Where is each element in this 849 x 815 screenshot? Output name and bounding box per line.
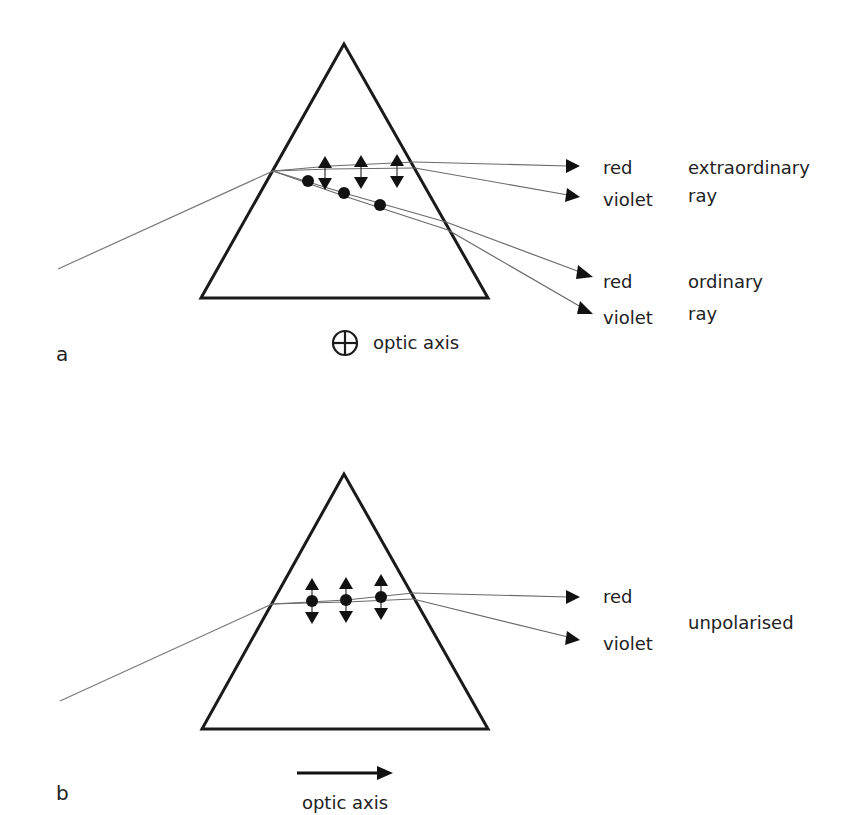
label-e-red: red [603,157,633,178]
label-e-violet: violet [603,189,653,210]
birefringent-prism-diagram: red violet red violet extraordinary ray … [0,0,849,815]
ray-violet-out [413,599,568,637]
optic-axis-label-a: optic axis [373,332,459,353]
dot-icon [338,187,350,199]
o-ray-violet-out [448,230,581,307]
label-extraordinary: extraordinary [688,157,810,178]
arrowhead-icon [576,265,593,279]
arrowhead-icon [565,188,580,202]
dot-icon [374,199,386,211]
arrowhead-icon [565,631,580,645]
double-arrow-icon [390,154,404,188]
arrowhead-icon [566,590,580,604]
label-ordinary: ordinary [688,271,763,292]
part-label-b: b [56,781,69,805]
e-ray-polarisation-arrows [318,154,404,190]
panel-b: red violet unpolarised optic axis b [56,474,794,813]
double-arrow-icon [318,156,332,190]
unpolarised-markers [305,574,388,624]
label-o-violet: violet [603,307,653,328]
double-arrow-icon [354,155,368,189]
dot-double-arrow-icon [305,578,319,624]
dot-double-arrow-icon [339,577,353,623]
label-ordinary-ray: ray [688,303,717,324]
dot-double-arrow-icon [374,574,388,620]
optic-axis-perpendicular-icon [333,331,357,355]
incident-ray-a [58,171,273,269]
part-label-a: a [56,342,68,366]
incident-ray-b [60,604,272,701]
label-b-violet: violet [603,633,653,654]
e-ray-violet-out [415,168,568,195]
prism-a [201,44,488,298]
label-b-red: red [603,586,633,607]
label-o-red: red [603,271,633,292]
e-ray-red-out [415,162,568,166]
label-unpolarised: unpolarised [688,612,794,633]
label-extraordinary-ray: ray [688,185,717,206]
o-ray-red-out [446,222,580,272]
ray-red-out [413,593,568,597]
ordinary-rays [273,171,593,314]
extraordinary-rays [273,159,580,202]
panel-a: red violet red violet extraordinary ray … [56,44,810,366]
dot-icon [302,175,314,187]
arrowhead-icon [577,301,593,314]
optic-axis-label-b: optic axis [302,792,388,813]
arrowhead-icon [566,159,580,173]
optic-axis-arrow-icon [297,766,393,780]
